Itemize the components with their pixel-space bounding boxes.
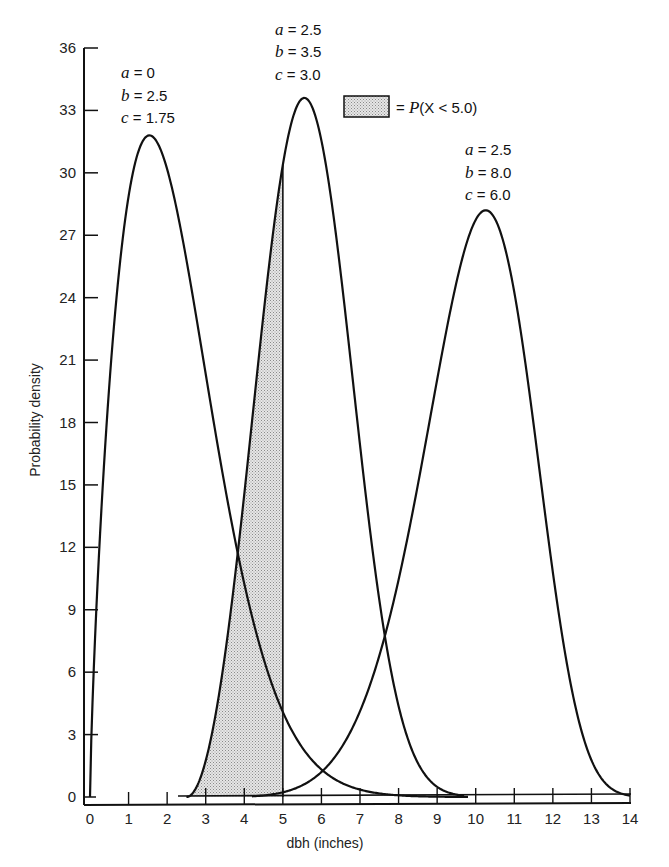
x-axis: 01234567891011121314 <box>84 788 638 827</box>
y-tick-label: 12 <box>59 538 76 555</box>
x-tick-label: 3 <box>202 810 210 827</box>
y-axis-title: Probability density <box>27 363 43 477</box>
svg-text:b = 8.0: b = 8.0 <box>465 163 511 182</box>
y-tick-label: 33 <box>59 101 76 118</box>
y-tick-label: 6 <box>68 663 76 680</box>
x-tick-label: 10 <box>467 810 484 827</box>
weibull-density-chart: 0369121518212427303336 01234567891011121… <box>0 0 669 867</box>
y-tick-label: 27 <box>59 226 76 243</box>
svg-text:a = 2.5: a = 2.5 <box>465 140 511 159</box>
x-tick-label: 13 <box>583 810 600 827</box>
svg-text:c = 3.0: c = 3.0 <box>275 65 321 84</box>
y-tick-label: 30 <box>59 164 76 181</box>
curve3-params: a = 2.5 b = 8.0 c = 6.0 <box>465 140 511 204</box>
y-tick-label: 15 <box>59 476 76 493</box>
x-axis-title: dbh (inches) <box>286 835 363 851</box>
svg-text:b = 3.5: b = 3.5 <box>275 42 321 61</box>
legend-label: = P(X < 5.0) <box>396 98 477 117</box>
svg-text:c = 1.75: c = 1.75 <box>121 108 175 127</box>
x-tick-label: 12 <box>545 810 562 827</box>
shaded-probability-area <box>186 165 282 797</box>
y-tick-label: 3 <box>68 726 76 743</box>
legend-swatch <box>344 96 389 117</box>
curve2-params: a = 2.5 b = 3.5 c = 3.0 <box>275 20 321 84</box>
x-tick-label: 0 <box>86 810 94 827</box>
legend: = P(X < 5.0) <box>344 96 477 117</box>
y-tick-label: 9 <box>68 601 76 618</box>
y-tick-label: 18 <box>59 414 76 431</box>
x-tick-label: 2 <box>163 810 171 827</box>
svg-text:b = 2.5: b = 2.5 <box>121 86 167 105</box>
y-tick-label: 36 <box>59 39 76 56</box>
svg-text:a = 0: a = 0 <box>121 63 155 82</box>
x-tick-label: 9 <box>433 810 441 827</box>
svg-text:a = 2.5: a = 2.5 <box>275 20 321 39</box>
x-tick-label: 11 <box>506 810 522 827</box>
svg-text:c = 6.0: c = 6.0 <box>465 185 511 204</box>
x-tick-label: 8 <box>394 810 402 827</box>
y-tick-label: 21 <box>59 351 76 368</box>
x-tick-label: 4 <box>240 810 248 827</box>
x-tick-label: 1 <box>124 810 132 827</box>
y-tick-label: 24 <box>59 289 76 306</box>
x-tick-label: 6 <box>317 810 325 827</box>
x-tick-label: 5 <box>279 810 287 827</box>
curve1-params: a = 0 b = 2.5 c = 1.75 <box>121 63 175 127</box>
curve-a2.5-b8.0-c6.0 <box>252 210 630 796</box>
x-tick-label: 14 <box>622 810 639 827</box>
y-tick-label: 0 <box>68 788 76 805</box>
x-tick-label: 7 <box>356 810 364 827</box>
